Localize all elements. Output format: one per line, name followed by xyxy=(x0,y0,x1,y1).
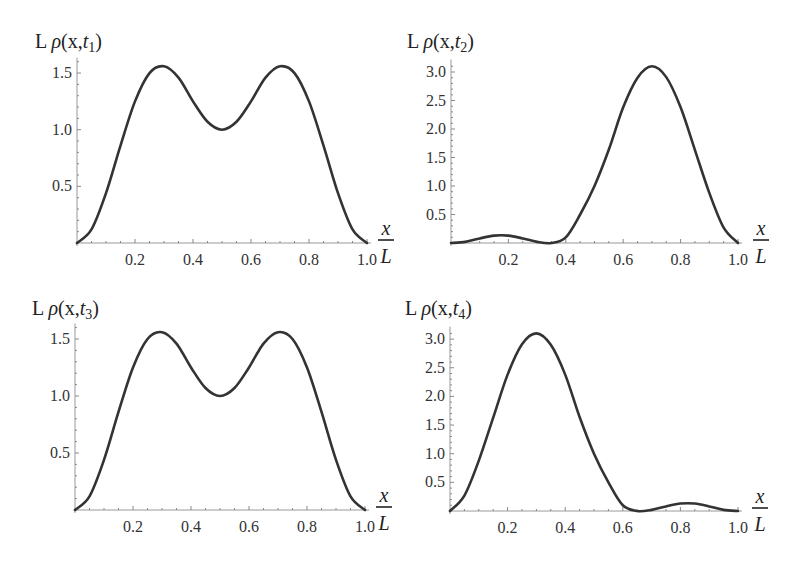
panel-t1: L ρ(x,t1)0.20.40.60.81.00.51.01.5xL xyxy=(35,30,394,268)
panel-t4: L ρ(x,t4)0.20.40.60.81.00.51.01.52.02.53… xyxy=(405,297,768,536)
x-axis-label-denominator: L xyxy=(379,245,391,267)
x-tick-label: 1.0 xyxy=(728,519,748,536)
panel-title: L ρ(x,t4) xyxy=(405,297,472,322)
x-tick-label: 0.2 xyxy=(498,251,518,268)
y-tick-label: 2.0 xyxy=(425,387,445,404)
x-axis-label-denominator: L xyxy=(753,513,765,535)
y-tick-label: 0.5 xyxy=(52,177,72,194)
density-curve xyxy=(451,66,738,243)
x-tick-label: 0.4 xyxy=(181,518,201,535)
y-tick-label: 3.0 xyxy=(426,63,446,80)
y-tick-label: 0.5 xyxy=(426,206,446,223)
density-curve xyxy=(75,332,365,510)
x-axis-label-denominator: L xyxy=(754,245,766,267)
x-tick-label: 1.0 xyxy=(357,251,377,268)
x-axis-label-numerator: x xyxy=(756,217,766,239)
x-tick-label: 0.8 xyxy=(670,519,690,536)
x-axis-label-numerator: x xyxy=(381,217,391,239)
x-tick-label: 0.8 xyxy=(297,518,317,535)
figure-canvas: L ρ(x,t1)0.20.40.60.81.00.51.01.5xL L ρ(… xyxy=(0,0,803,569)
x-tick-label: 0.8 xyxy=(299,251,319,268)
y-tick-label: 1.0 xyxy=(52,121,72,138)
x-tick-label: 0.6 xyxy=(613,519,633,536)
x-tick-label: 0.2 xyxy=(498,519,518,536)
y-tick-label: 1.0 xyxy=(425,445,445,462)
panel-title: L ρ(x,t3) xyxy=(32,297,99,322)
x-tick-label: 1.0 xyxy=(355,518,375,535)
panel-title: L ρ(x,t1) xyxy=(35,30,102,55)
x-tick-label: 0.2 xyxy=(123,518,143,535)
y-tick-label: 1.0 xyxy=(50,387,70,404)
x-tick-label: 0.2 xyxy=(125,251,145,268)
x-axis-label-numerator: x xyxy=(755,485,765,507)
y-tick-label: 0.5 xyxy=(50,444,70,461)
y-tick-label: 1.5 xyxy=(50,330,70,347)
y-tick-label: 1.0 xyxy=(426,177,446,194)
x-tick-label: 0.6 xyxy=(241,251,261,268)
x-tick-label: 0.6 xyxy=(239,518,259,535)
y-tick-label: 2.5 xyxy=(426,92,446,109)
x-tick-label: 0.4 xyxy=(556,251,576,268)
y-tick-label: 1.5 xyxy=(426,149,446,166)
panel-t3: L ρ(x,t3)0.20.40.60.81.00.51.01.5xL xyxy=(32,297,392,535)
panel-title: L ρ(x,t2) xyxy=(407,30,474,55)
x-tick-label: 0.8 xyxy=(671,251,691,268)
x-axis-label-denominator: L xyxy=(377,512,389,534)
x-tick-label: 0.4 xyxy=(555,519,575,536)
y-tick-label: 3.0 xyxy=(425,330,445,347)
panel-t2: L ρ(x,t2)0.20.40.60.81.00.51.01.52.02.53… xyxy=(407,30,769,268)
x-tick-label: 1.0 xyxy=(728,251,748,268)
y-tick-label: 1.5 xyxy=(52,64,72,81)
y-tick-label: 1.5 xyxy=(425,416,445,433)
x-tick-label: 0.6 xyxy=(613,251,633,268)
y-tick-label: 0.5 xyxy=(425,473,445,490)
density-curve xyxy=(77,66,367,243)
y-tick-label: 2.5 xyxy=(425,359,445,376)
x-axis-label-numerator: x xyxy=(379,484,389,506)
y-tick-label: 2.0 xyxy=(426,120,446,137)
x-tick-label: 0.4 xyxy=(183,251,203,268)
density-curve xyxy=(450,333,738,511)
